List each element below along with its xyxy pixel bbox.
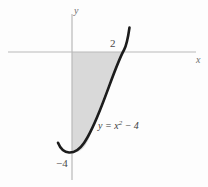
equation-head: y = x (98, 120, 119, 131)
parabola-plot (0, 0, 208, 187)
y-axis-label: y (74, 6, 78, 16)
curve-equation-label: y = x2 − 4 (98, 121, 139, 131)
x-axis-label: x (196, 55, 200, 65)
x-intercept-tick-label: 2 (110, 38, 116, 49)
y-intercept-tick-label: −4 (56, 158, 68, 169)
equation-tail: − 4 (122, 120, 139, 131)
figure-canvas: y x 2 −4 y = x2 − 4 (0, 0, 208, 187)
